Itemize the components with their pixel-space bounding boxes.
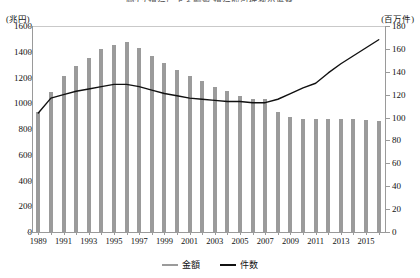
right-axis-tick-label: 0: [392, 227, 397, 237]
x-axis-tick-mark: [114, 232, 115, 235]
x-axis-tick-label: 2003: [206, 236, 223, 246]
legend-swatch-icon: [162, 264, 178, 266]
x-axis-tick-mark: [316, 232, 317, 235]
right-axis-tick-mark: [385, 118, 390, 119]
right-axis-tick-mark: [385, 26, 390, 27]
right-axis-tick-mark: [385, 209, 390, 210]
x-axis-tick-label: 2005: [232, 236, 249, 246]
right-axis-tick-label: 80: [392, 135, 401, 145]
x-axis-tick-mark: [265, 232, 266, 235]
right-axis-tick-mark: [385, 232, 390, 233]
x-axis-tick-mark: [240, 232, 241, 235]
x-axis-labels: 1989199119931995199719992001200320052007…: [32, 236, 385, 250]
x-axis-tick-mark: [379, 232, 380, 235]
x-axis-tick-mark: [202, 232, 203, 235]
x-axis-tick-mark: [127, 232, 128, 235]
legend-swatch-icon: [220, 264, 236, 266]
legend-label: 件数: [240, 260, 258, 270]
left-axis-tick-mark: [27, 232, 32, 233]
right-axis-tick-label: 180: [392, 21, 406, 31]
right-axis-tick-mark: [385, 49, 390, 50]
right-axis-tick-label: 120: [392, 90, 406, 100]
chart-container: 図3-2 銀行による融資 銀行取引件数の推移 (兆円) (百万件) 020040…: [0, 0, 420, 278]
right-axis-tick-label: 60: [392, 158, 401, 168]
x-axis-tick-mark: [164, 232, 165, 235]
x-axis-tick-label: 1991: [55, 236, 72, 246]
x-axis-tick-mark: [101, 232, 102, 235]
x-axis-tick-mark: [366, 232, 367, 235]
x-axis-tick-mark: [341, 232, 342, 235]
x-axis-tick-mark: [51, 232, 52, 235]
right-axis-tick-mark: [385, 163, 390, 164]
x-axis-tick-mark: [190, 232, 191, 235]
chart-title: 図3-2 銀行による融資 銀行取引件数の推移: [0, 0, 420, 2]
x-axis-tick-label: 2015: [358, 236, 375, 246]
right-axis-tick-label: 40: [392, 181, 401, 191]
x-axis-tick-label: 2011: [307, 236, 324, 246]
x-axis-tick-mark: [227, 232, 228, 235]
x-axis-tick-label: 2007: [257, 236, 274, 246]
x-axis-tick-label: 2001: [181, 236, 198, 246]
x-axis-tick-label: 1993: [80, 236, 97, 246]
x-axis-tick-label: 2009: [282, 236, 299, 246]
x-axis-tick-mark: [76, 232, 77, 235]
x-axis-tick-label: 1997: [131, 236, 148, 246]
legend-item: 金額: [162, 258, 200, 271]
x-axis-line: [32, 232, 386, 233]
x-axis-tick-mark: [253, 232, 254, 235]
right-axis-line: [385, 26, 386, 232]
x-axis-tick-mark: [328, 232, 329, 235]
x-axis-tick-mark: [177, 232, 178, 235]
line-series-count: [32, 26, 385, 232]
right-axis-tick-mark: [385, 72, 390, 73]
x-axis-tick-mark: [38, 232, 39, 235]
x-axis-tick-mark: [89, 232, 90, 235]
right-axis-tick-label: 160: [392, 44, 406, 54]
x-axis-tick-mark: [353, 232, 354, 235]
x-axis-tick-label: 1999: [156, 236, 173, 246]
x-axis-tick-mark: [215, 232, 216, 235]
chart-legend: 金額件数: [0, 258, 420, 271]
right-axis-tick-mark: [385, 140, 390, 141]
right-axis-tick-label: 100: [392, 113, 406, 123]
legend-item: 件数: [220, 258, 258, 271]
x-axis-tick-mark: [64, 232, 65, 235]
x-axis-tick-mark: [278, 232, 279, 235]
legend-label: 金額: [182, 260, 200, 270]
x-axis-tick-label: 1989: [30, 236, 47, 246]
x-axis-tick-mark: [152, 232, 153, 235]
right-axis-tick-label: 20: [392, 204, 401, 214]
right-axis-tick-mark: [385, 95, 390, 96]
right-axis-tick-mark: [385, 186, 390, 187]
x-axis-tick-label: 1995: [105, 236, 122, 246]
right-axis-tick-label: 140: [392, 67, 406, 77]
x-axis-tick-label: 2013: [332, 236, 349, 246]
x-axis-tick-mark: [139, 232, 140, 235]
x-axis-tick-mark: [303, 232, 304, 235]
x-axis-tick-mark: [290, 232, 291, 235]
